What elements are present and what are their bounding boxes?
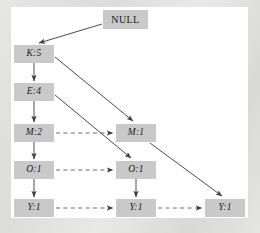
node-o1-middle[interactable]: O:1 — [116, 161, 156, 179]
node-y1-left[interactable]: Y:1 — [14, 199, 54, 217]
node-null[interactable]: NULL — [103, 10, 148, 29]
edge-m1-y1c — [150, 143, 222, 196]
node-m2[interactable]: M:2 — [14, 124, 54, 142]
node-y1-right[interactable]: Y:1 — [205, 199, 245, 217]
node-m1[interactable]: M:1 — [116, 124, 156, 142]
node-o1-left[interactable]: O:1 — [14, 161, 54, 179]
fp-tree-figure: M:1 --> O:1 --> Y:1 --> Y:1 (far right) … — [0, 0, 260, 233]
node-y1-middle[interactable]: Y:1 — [116, 199, 156, 217]
edge-k5-m1 — [55, 57, 133, 121]
edge-null-k5 — [39, 24, 102, 43]
node-e4[interactable]: E:4 — [14, 83, 54, 101]
node-k5[interactable]: K:5 — [14, 45, 54, 63]
